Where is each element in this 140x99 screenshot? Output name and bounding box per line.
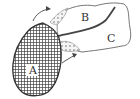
label-b: B	[81, 11, 89, 24]
arrow-top-head-icon	[46, 6, 51, 11]
dotted-region-lower	[60, 41, 80, 51]
region-c-outline	[66, 3, 131, 52]
arrow-top-icon	[33, 9, 49, 21]
label-c: C	[107, 32, 115, 45]
label-a: A	[28, 64, 38, 77]
arrow-lower-icon	[62, 55, 75, 63]
diagram: A B C	[0, 0, 140, 99]
dotted-region-top	[50, 8, 68, 24]
arrow-lower-head-icon	[72, 53, 77, 58]
region-a	[13, 23, 61, 96]
